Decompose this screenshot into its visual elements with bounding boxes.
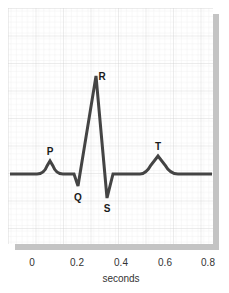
x-tick-0-4: 0.4 <box>114 257 128 268</box>
grid-lines <box>8 8 213 244</box>
x-axis: 0 0.2 0.4 0.6 0.8 seconds <box>29 257 215 284</box>
ecg-diagram: P Q R S T 0 0.2 0.4 0.6 0.8 seconds <box>0 0 229 293</box>
x-tick-0-2: 0.2 <box>70 257 84 268</box>
x-axis-label: seconds <box>102 273 139 284</box>
wave-label-r: R <box>98 71 106 82</box>
x-tick-0: 0 <box>29 257 35 268</box>
wave-label-p: P <box>47 146 54 157</box>
wave-label-t: T <box>155 141 161 152</box>
wave-label-q: Q <box>74 192 82 203</box>
wave-label-s: S <box>104 203 111 214</box>
x-tick-0-8: 0.8 <box>201 257 215 268</box>
x-tick-0-6: 0.6 <box>158 257 172 268</box>
